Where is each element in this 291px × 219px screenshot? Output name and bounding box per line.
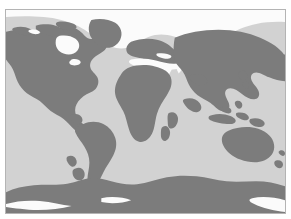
world-map-frame <box>5 9 286 214</box>
world-map-canvas[interactable] <box>6 10 285 213</box>
page-root <box>0 0 291 219</box>
